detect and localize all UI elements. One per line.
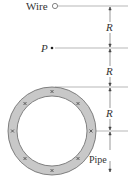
arrow-icon (109, 49, 111, 52)
wire-label: Wire (26, 0, 48, 12)
dimension-label-r2: R (105, 65, 113, 77)
arrow-icon (109, 83, 111, 86)
arrow-icon (109, 169, 111, 172)
point-p-dot (51, 47, 54, 50)
point-p-label: P (40, 42, 48, 54)
dimension-label-r1: R (105, 21, 113, 33)
arrow-icon (109, 88, 111, 91)
arrow-icon (109, 127, 111, 130)
wire-pipe-diagram: Wire P R R R Pipe (0, 0, 128, 183)
arrow-icon (109, 132, 111, 135)
wire-icon (52, 3, 57, 8)
arrow-icon (109, 7, 111, 10)
pipe-label: Pipe (89, 154, 107, 165)
arrow-icon (109, 44, 111, 47)
dimension-label-r3: R (105, 107, 113, 119)
pipe (8, 87, 96, 175)
